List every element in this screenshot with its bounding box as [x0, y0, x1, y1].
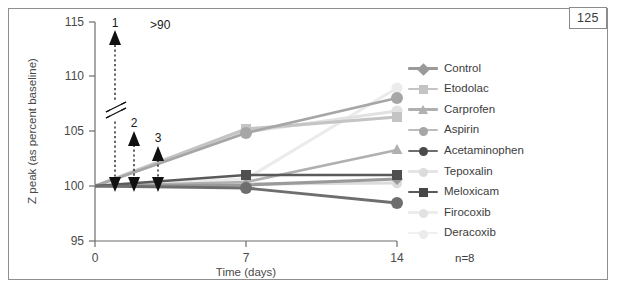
legend-label: Deracoxib: [444, 227, 496, 239]
data-point: [391, 197, 403, 209]
data-point: [241, 170, 251, 180]
data-point: [392, 112, 402, 122]
data-point: [240, 127, 252, 139]
data-point: [391, 82, 402, 93]
data-point: [392, 170, 402, 180]
annotation-label-2: 2: [131, 116, 138, 130]
annotation-label-1: 1: [112, 16, 119, 30]
legend-label: Etodolac: [444, 83, 489, 95]
legend-item-deracoxib[interactable]: Deracoxib: [408, 223, 608, 244]
legend-item-tepoxalin[interactable]: Tepoxalin: [408, 161, 608, 182]
annotation-label-3: 3: [155, 131, 162, 145]
legend-item-aspirin[interactable]: Aspirin: [408, 120, 608, 141]
series-acetaminophen: [95, 182, 403, 209]
legend-label: Meloxicam: [444, 186, 499, 198]
page-number-badge: 125: [569, 7, 607, 29]
page-number: 125: [577, 11, 599, 25]
legend-marker-circle-icon: [408, 226, 438, 240]
x-axis-title: Time (days): [216, 266, 276, 278]
legend-label: Tepoxalin: [444, 166, 493, 178]
annotation-note: >90: [150, 18, 171, 32]
x-axis: [95, 241, 397, 247]
annotation-arrow-2: 2: [128, 116, 140, 192]
legend-item-control[interactable]: Control: [408, 58, 608, 79]
ytick-label-110: 110: [65, 69, 84, 83]
legend-label: Carprofen: [444, 104, 495, 116]
legend-marker-circle-icon: [408, 164, 438, 178]
legend-label: Aspirin: [444, 124, 479, 136]
legend-label: Acetaminophen: [444, 145, 524, 157]
xtick-label-0: 0: [92, 251, 99, 265]
legend-marker-triangle-icon: [408, 102, 438, 116]
figure-page: 125 115 110 105 100: [0, 0, 618, 293]
data-point: [391, 92, 403, 104]
data-point: [392, 144, 403, 154]
xtick-label-14: 14: [390, 251, 404, 265]
legend-item-firocoxib[interactable]: Firocoxib: [408, 202, 608, 223]
legend-marker-square-icon: [408, 82, 438, 96]
legend-item-etodolac[interactable]: Etodolac: [408, 79, 608, 100]
legend-label: Firocoxib: [444, 207, 491, 219]
xtick-label-7: 7: [243, 251, 250, 265]
legend-marker-diamond-icon: [408, 61, 438, 75]
legend-marker-circle-icon: [408, 123, 438, 137]
ytick-label-115: 115: [65, 15, 84, 29]
sample-size-note: n=8: [455, 252, 475, 264]
data-point: [240, 182, 252, 194]
legend-marker-circle-icon: [408, 205, 438, 219]
y-axis-title: Z peak (as percent baseline): [26, 58, 38, 204]
annotation-arrow-1: 1: [106, 16, 126, 192]
ytick-label-100: 100: [64, 179, 84, 193]
ytick-label-95: 95: [71, 234, 85, 248]
legend-item-acetaminophen[interactable]: Acetaminophen: [408, 140, 608, 161]
legend-marker-circle-icon: [408, 144, 438, 158]
legend-item-meloxicam[interactable]: Meloxicam: [408, 182, 608, 203]
legend-label: Control: [444, 63, 481, 75]
legend-marker-square-icon: [408, 185, 438, 199]
y-axis: [89, 22, 95, 241]
ytick-label-105: 105: [64, 124, 84, 138]
chart-legend: Control Etodolac Carprofen Aspirin: [408, 58, 608, 243]
legend-item-carprofen[interactable]: Carprofen: [408, 99, 608, 120]
